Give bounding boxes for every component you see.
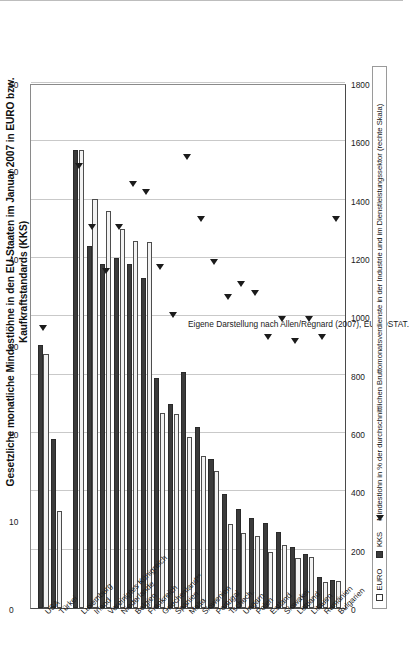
primary-axis-tick: 600 xyxy=(351,430,365,440)
bar-kks xyxy=(168,404,173,608)
secondary-axis-tick: 20 xyxy=(9,430,18,440)
bar-euro xyxy=(57,511,62,608)
bar-euro xyxy=(174,414,179,608)
bar-kks xyxy=(181,372,186,608)
legend-item-euro: EURO xyxy=(375,569,384,601)
percent-marker-icon xyxy=(332,216,340,222)
percent-marker-icon xyxy=(210,259,218,265)
percent-marker-icon xyxy=(224,294,232,300)
bar-kks xyxy=(100,264,105,608)
secondary-axis-tick: 10 xyxy=(9,518,18,528)
primary-axis-tick: 1800 xyxy=(351,80,370,90)
legend-item-kks: KKS xyxy=(375,532,384,558)
percent-marker-icon xyxy=(142,189,150,195)
percent-marker-icon xyxy=(237,281,245,287)
bar-row xyxy=(181,83,194,608)
bar-kks xyxy=(73,150,78,608)
percent-marker-icon xyxy=(102,268,110,274)
bar-row xyxy=(289,83,302,608)
percent-marker-icon xyxy=(39,325,47,331)
filled-square-icon xyxy=(376,551,383,558)
percent-marker-icon xyxy=(197,216,205,222)
bar-row xyxy=(154,83,167,608)
percent-marker-icon xyxy=(251,290,259,296)
bar-row xyxy=(208,83,221,608)
bar-euro xyxy=(43,354,48,608)
percent-marker-icon xyxy=(129,181,137,187)
secondary-axis-tick: 40 xyxy=(9,255,18,265)
bar-row xyxy=(221,83,234,608)
bar-row xyxy=(113,83,126,608)
bar-row xyxy=(316,83,329,608)
bar-row xyxy=(194,83,207,608)
bar-euro xyxy=(214,471,219,608)
secondary-axis-tick: 30 xyxy=(9,343,18,353)
bar-row xyxy=(73,83,86,608)
secondary-axis-tick: 60 xyxy=(9,80,18,90)
bar-euro xyxy=(201,456,206,608)
bar-euro xyxy=(133,241,138,608)
bar-row xyxy=(37,83,50,608)
chart-legend: EURO KKS Mindestlohn in % der durchschni… xyxy=(372,66,387,609)
bar-kks xyxy=(141,278,146,608)
percent-marker-icon xyxy=(156,264,164,270)
bar-row xyxy=(235,83,248,608)
bar-row xyxy=(51,83,64,608)
bar-kks xyxy=(51,439,56,608)
legend-label-euro: EURO xyxy=(375,569,384,591)
bar-row xyxy=(276,83,289,608)
bar-row xyxy=(303,83,316,608)
open-square-icon xyxy=(376,594,383,601)
percent-marker-icon xyxy=(169,312,177,318)
primary-axis-tick: 1600 xyxy=(351,138,370,148)
primary-axis-tick: 1400 xyxy=(351,197,370,207)
percent-marker-icon xyxy=(291,338,299,344)
bar-row xyxy=(330,83,343,608)
primary-axis-tick: 800 xyxy=(351,372,365,382)
primary-axis-tick: 1200 xyxy=(351,255,370,265)
bar-row xyxy=(248,83,261,608)
triangle-marker-icon xyxy=(376,515,384,521)
secondary-axis-tick: 50 xyxy=(9,168,18,178)
bar-euro xyxy=(92,199,97,608)
bar-row xyxy=(86,83,99,608)
bar-kks xyxy=(38,346,43,609)
percent-marker-icon xyxy=(183,154,191,160)
percent-marker-icon xyxy=(318,334,326,340)
bar-row xyxy=(262,83,275,608)
percent-marker-icon xyxy=(88,224,96,230)
secondary-axis-tick: 0 xyxy=(9,605,14,615)
legend-label-percent: Mindestlohn in % der durchschnittlichen … xyxy=(375,104,384,521)
legend-label-kks: KKS xyxy=(375,532,384,547)
bar-kks xyxy=(208,459,213,608)
bar-row xyxy=(140,83,153,608)
bar-euro xyxy=(160,413,165,608)
chart-title-line-1: Gesetzliche monatliche Mindestlöhne in d… xyxy=(4,47,30,517)
bar-row xyxy=(167,83,180,608)
percent-marker-icon xyxy=(75,163,83,169)
legend-item-percent: Mindestlohn in % der durchschnittlichen … xyxy=(375,104,384,521)
bar-row xyxy=(127,83,140,608)
bar-kks xyxy=(127,264,132,608)
primary-axis-tick: 200 xyxy=(351,547,365,557)
bar-kks xyxy=(87,246,92,608)
bar-euro xyxy=(147,242,152,608)
bar-euro xyxy=(79,150,84,608)
bar-euro xyxy=(120,229,125,608)
plot-area xyxy=(30,84,346,609)
percent-marker-icon xyxy=(115,224,123,230)
bar-row xyxy=(100,83,113,608)
bar-kks xyxy=(114,258,119,608)
percent-marker-icon xyxy=(264,334,272,340)
primary-axis-tick: 400 xyxy=(351,488,365,498)
